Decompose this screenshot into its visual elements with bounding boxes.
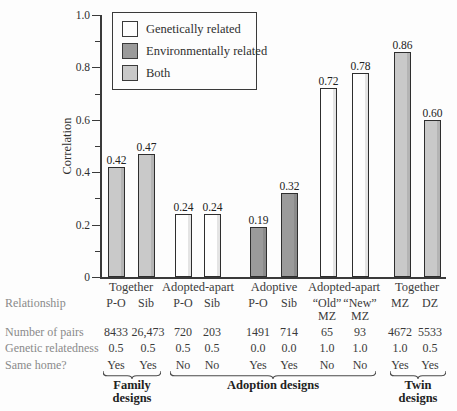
legend-swatch-genetically-related-icon	[122, 21, 138, 37]
y-major-tick	[92, 15, 100, 16]
legend-swatch-environmentally-related-icon	[122, 43, 138, 59]
legend-label: Environmentally related	[146, 44, 267, 59]
y-axis-title: Correlation	[60, 118, 75, 175]
pairs-cell: 720	[174, 326, 192, 339]
relatedness-cell: 0.5	[109, 342, 124, 355]
bar-old-mz: 0.72	[320, 88, 337, 277]
pairs-cell: 65	[321, 326, 333, 339]
relatedness-cell: 0.5	[176, 342, 191, 355]
group-label-adopted-apart-2: Adopted-apart	[308, 281, 380, 294]
row-label-same-home: Same home?	[5, 359, 67, 372]
relatedness-cell: 0.5	[205, 342, 220, 355]
y-major-tick	[92, 277, 100, 278]
relationship-cell: P-O	[248, 297, 267, 310]
group-label-adopted-apart-1: Adopted-apart	[162, 281, 234, 294]
y-tick-label: 1.0	[56, 8, 90, 22]
relatedness-cell: 1.0	[353, 342, 368, 355]
y-minor-tick	[95, 198, 100, 199]
chart-legend: Genetically related Environmentally rela…	[112, 12, 257, 90]
bar-value-label: 0.78	[350, 60, 370, 72]
pairs-cell: 203	[203, 326, 221, 339]
pairs-cell: 8433	[104, 326, 128, 339]
relationship-cell: Sib	[281, 297, 297, 310]
y-tick-label: 0.2	[56, 218, 90, 232]
bar-value-label: 0.86	[392, 39, 412, 51]
row-label-genetic-relatedness: Genetic relatedness	[5, 342, 99, 355]
y-axis-line	[100, 15, 102, 277]
group-label-together-1: Together	[109, 281, 153, 294]
y-minor-tick	[95, 146, 100, 147]
relatedness-cell: 0.5	[141, 342, 156, 355]
design-label-line: Twin	[399, 379, 438, 392]
group-label-together-2: Together	[395, 281, 439, 294]
design-label-line: designs	[399, 392, 438, 405]
relationship-cell: DZ	[422, 297, 438, 310]
relationship-cell: Sib	[138, 297, 154, 310]
legend-item-both: Both	[122, 65, 256, 81]
relationship-cell: P-O	[173, 297, 192, 310]
relationship-cell: Sib	[204, 297, 220, 310]
design-label-line: designs	[113, 392, 152, 405]
pairs-cell: 1491	[246, 326, 270, 339]
relationship-cell: MZ	[318, 310, 336, 323]
bar-adopted-apart-po: 0.24	[175, 214, 192, 277]
relatedness-cell: 0.5	[423, 342, 438, 355]
relatedness-cell: 1.0	[393, 342, 408, 355]
pairs-cell: 4672	[388, 326, 412, 339]
pairs-cell: 26,473	[132, 326, 165, 339]
legend-label: Genetically related	[146, 22, 241, 37]
bar-value-label: 0.32	[279, 180, 299, 192]
bar-together-sib: 0.47	[138, 154, 155, 277]
bar-twin-dz: 0.60	[424, 120, 441, 277]
bar-value-label: 0.24	[202, 201, 222, 213]
bar-value-label: 0.47	[136, 141, 156, 153]
y-major-tick	[92, 67, 100, 68]
group-label-adoptive: Adoptive	[251, 281, 298, 294]
design-label-line: Family	[113, 379, 152, 392]
relatedness-cell: 0.0	[251, 342, 266, 355]
relatedness-cell: 1.0	[320, 342, 335, 355]
pairs-cell: 714	[280, 326, 298, 339]
legend-swatch-both-icon	[122, 65, 138, 81]
relationship-cell: MZ	[351, 310, 369, 323]
design-label-adoption: Adoption designs	[227, 379, 319, 392]
legend-label: Both	[146, 66, 170, 81]
legend-item-genetically-related: Genetically related	[122, 21, 256, 37]
bar-value-label: 0.72	[318, 75, 338, 87]
x-axis-line	[100, 277, 446, 279]
y-tick-label: 0	[56, 270, 90, 284]
bar-adoptive-sib: 0.32	[281, 193, 298, 277]
legend-item-environmentally-related: Environmentally related	[122, 43, 256, 59]
pairs-cell: 5533	[418, 326, 442, 339]
relationship-cell: MZ	[391, 297, 409, 310]
pairs-cell: 93	[354, 326, 366, 339]
y-minor-tick	[95, 41, 100, 42]
y-major-tick	[92, 172, 100, 173]
bar-value-label: 0.42	[106, 154, 126, 166]
relationship-cell: P-O	[106, 297, 125, 310]
bar-adoptive-po: 0.19	[250, 227, 267, 277]
bar-twin-mz: 0.86	[394, 52, 411, 277]
design-label-family: Family designs	[113, 379, 152, 404]
y-minor-tick	[95, 94, 100, 95]
correlation-bar-chart-figure: 1.0 0.8 0.6 0.4 0.2 0 Correlation Geneti…	[0, 0, 457, 411]
y-major-tick	[92, 120, 100, 121]
relatedness-cell: 0.0	[282, 342, 297, 355]
bar-adopted-apart-sib: 0.24	[204, 214, 221, 277]
y-major-tick	[92, 225, 100, 226]
bar-value-label: 0.19	[248, 214, 268, 226]
row-label-number-of-pairs: Number of pairs	[5, 326, 84, 339]
row-label-relationship: Relationship	[5, 297, 66, 310]
design-label-line: Adoption designs	[227, 379, 319, 392]
bar-value-label: 0.24	[173, 201, 193, 213]
y-minor-tick	[95, 251, 100, 252]
design-label-twin: Twin designs	[399, 379, 438, 404]
bar-together-po: 0.42	[108, 167, 125, 277]
bar-value-label: 0.60	[422, 107, 442, 119]
bar-new-mz: 0.78	[352, 73, 369, 277]
y-tick-label: 0.8	[56, 60, 90, 74]
